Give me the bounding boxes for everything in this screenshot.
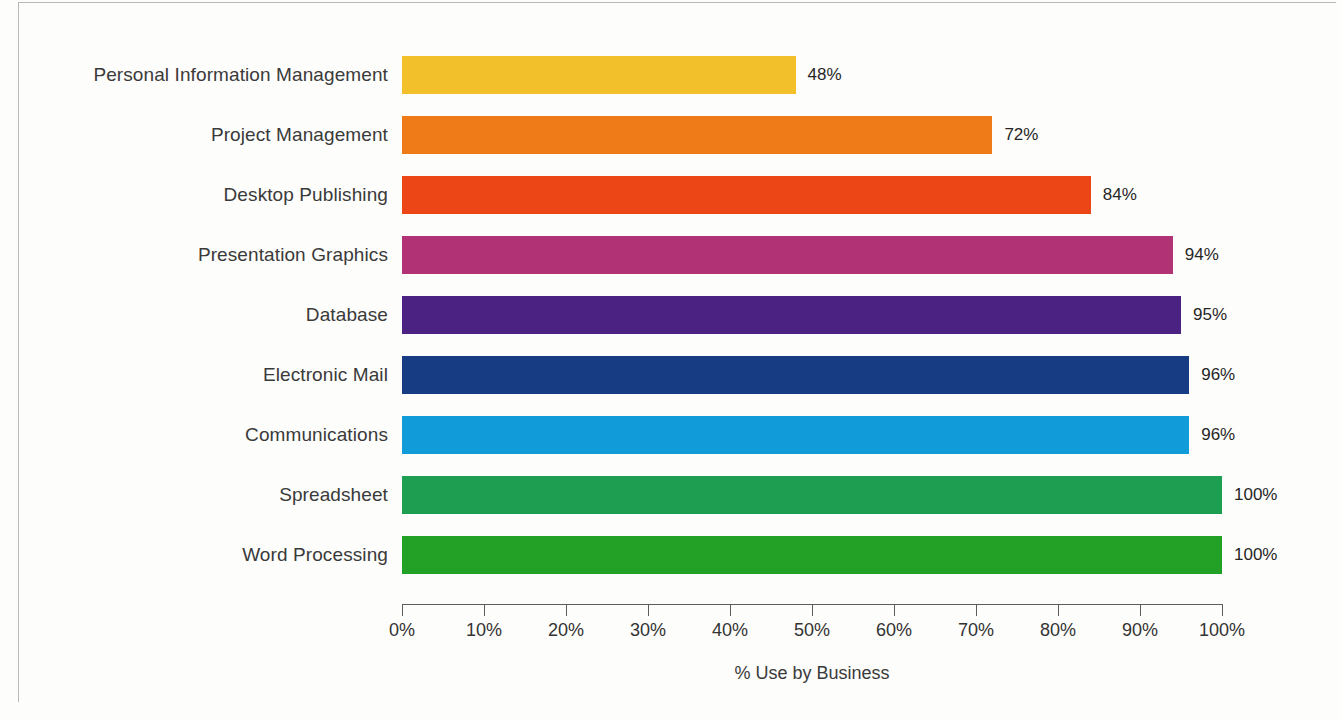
bar-category-label: Database [306,304,388,326]
bar-category-label: Communications [245,424,388,446]
x-axis-tick-label: 30% [630,620,666,641]
bar-row: Database95% [0,296,1340,334]
x-axis-tick [566,604,567,616]
x-axis-tick [1140,604,1141,616]
bar-category-label: Spreadsheet [279,484,388,506]
bar-row: Word Processing100% [0,536,1340,574]
bar-value-label: 95% [1193,305,1227,325]
x-axis-tick [730,604,731,616]
x-axis-tick-label: 10% [466,620,502,641]
bar [402,296,1181,334]
bar-row: Personal Information Management48% [0,56,1340,94]
bar-row: Communications96% [0,416,1340,454]
bar-row: Spreadsheet100% [0,476,1340,514]
bar-row: Desktop Publishing84% [0,176,1340,214]
bar-value-label: 100% [1234,485,1277,505]
x-axis-tick-label: 40% [712,620,748,641]
x-axis-tick [894,604,895,616]
bar-category-label: Personal Information Management [93,64,388,86]
bar-row: Project Management72% [0,116,1340,154]
bar [402,476,1222,514]
chart-page: Personal Information Management48%Projec… [0,0,1340,721]
x-axis-tick-label: 90% [1122,620,1158,641]
bar-value-label: 94% [1185,245,1219,265]
x-axis-tick-label: 20% [548,620,584,641]
bar-row: Electronic Mail96% [0,356,1340,394]
bar [402,176,1091,214]
x-axis-title: % Use by Business [402,663,1222,684]
bar [402,416,1189,454]
x-axis-tick-label: 70% [958,620,994,641]
x-axis-tick-label: 0% [389,620,415,641]
bar-category-label: Word Processing [242,544,388,566]
x-axis-tick-label: 60% [876,620,912,641]
bar [402,56,796,94]
bar-chart-plot-area: Personal Information Management48%Projec… [0,0,1340,721]
bar-value-label: 72% [1004,125,1038,145]
x-axis-tick [812,604,813,616]
x-axis-tick [648,604,649,616]
x-axis-tick-label: 80% [1040,620,1076,641]
x-axis-tick [1222,604,1223,616]
bar-value-label: 96% [1201,425,1235,445]
bar-value-label: 84% [1103,185,1137,205]
bar [402,236,1173,274]
x-axis-tick [976,604,977,616]
bar [402,116,992,154]
bar-category-label: Electronic Mail [263,364,388,386]
x-axis-tick [1058,604,1059,616]
bar-category-label: Presentation Graphics [198,244,388,266]
bar-category-label: Desktop Publishing [224,184,388,206]
bar-value-label: 48% [808,65,842,85]
x-axis-tick-label: 50% [794,620,830,641]
x-axis-tick [484,604,485,616]
x-axis-tick-label: 100% [1199,620,1245,641]
bar-row: Presentation Graphics94% [0,236,1340,274]
bar-value-label: 100% [1234,545,1277,565]
bar [402,536,1222,574]
x-axis-tick [402,604,403,616]
bar [402,356,1189,394]
bar-value-label: 96% [1201,365,1235,385]
bar-category-label: Project Management [211,124,388,146]
